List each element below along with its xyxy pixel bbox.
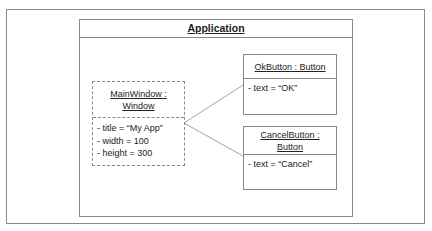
attribute: - title = “My App” xyxy=(97,122,163,135)
object-name: OkButton : Button xyxy=(244,55,336,79)
object-name-line: Window xyxy=(122,100,154,112)
object-cancel-button: CancelButton : Button - text = “Cancel” xyxy=(243,126,337,190)
object-ok-button: OkButton : Button - text = “OK” xyxy=(243,54,337,115)
object-main-window: MainWindow : Window - title = “My App” -… xyxy=(92,81,185,166)
attribute: - text = “OK” xyxy=(248,82,297,95)
object-name-line: OkButton : Button xyxy=(254,61,325,73)
application-title: Application xyxy=(80,20,352,38)
attribute-list: - text = “OK” xyxy=(248,82,297,95)
object-name: MainWindow : Window xyxy=(93,82,184,118)
attribute-list: - text = “Cancel” xyxy=(248,158,312,171)
attribute: - text = “Cancel” xyxy=(248,158,312,171)
object-name-line: MainWindow : xyxy=(110,88,167,100)
attribute: - width = 100 xyxy=(97,135,163,148)
object-name: CancelButton : Button xyxy=(244,127,336,155)
attribute: - height = 300 xyxy=(97,147,163,160)
object-name-line: Button xyxy=(277,141,303,153)
attribute-list: - title = “My App” - width = 100 - heigh… xyxy=(97,122,163,160)
object-name-line: CancelButton : xyxy=(260,129,319,141)
